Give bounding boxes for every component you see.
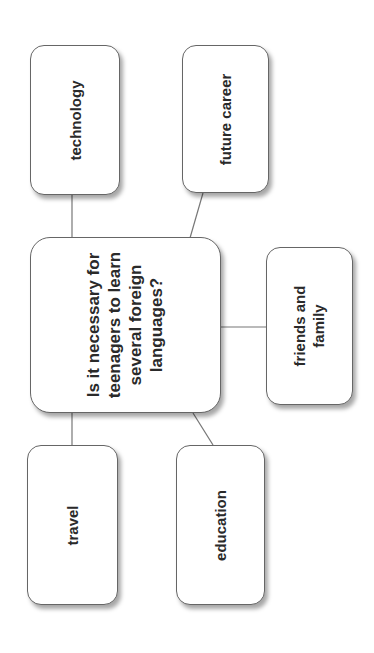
central-line-3: several foreign <box>125 252 146 398</box>
node-friends-family-label: friends and family <box>290 286 328 367</box>
node-future-career-label: future career <box>216 73 235 165</box>
node-technology-label: technology <box>65 80 84 160</box>
central-line-4: languages? <box>146 252 167 398</box>
node-travel-label: travel <box>63 505 82 545</box>
central-line-2: teenagers to learn <box>104 252 125 398</box>
central-question-text: Is it necessary for teenagers to learn s… <box>83 252 167 398</box>
central-question: Is it necessary for teenagers to learn s… <box>30 237 221 413</box>
node-travel: travel <box>27 445 118 605</box>
friends-line-2: family <box>309 286 328 367</box>
node-technology: technology <box>30 45 120 195</box>
node-friends-family: friends and family <box>266 247 353 405</box>
central-line-1: Is it necessary for <box>83 252 104 398</box>
node-education-label: education <box>211 490 230 561</box>
node-future-career: future career <box>182 45 269 193</box>
friends-line-1: friends and <box>290 286 309 367</box>
connector-future-career <box>190 193 203 238</box>
node-education: education <box>176 445 265 605</box>
connector-education <box>193 413 213 445</box>
